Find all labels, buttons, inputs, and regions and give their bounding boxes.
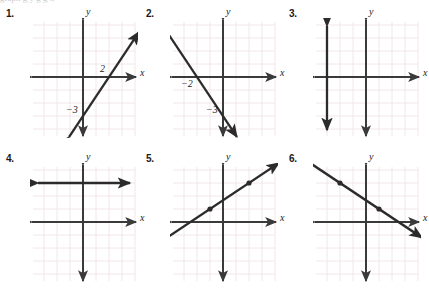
y-axis-label: y	[226, 6, 230, 17]
y-axis-label: y	[369, 6, 373, 17]
problem-number: 5.	[146, 153, 154, 164]
y-axis-label: y	[369, 151, 373, 162]
graphed-line	[69, 32, 138, 137]
coordinate-plane: yx	[170, 163, 278, 283]
problem-number: 3.	[289, 8, 297, 19]
problem-5: 5.yx	[140, 145, 283, 289]
coordinate-plane: yx	[313, 18, 421, 138]
intercept-label: −3	[66, 104, 78, 115]
coordinate-plane: yx	[313, 163, 421, 283]
coordinate-plane: yx	[30, 163, 138, 283]
problem-4: 4.yx	[0, 145, 143, 289]
problem-number: 6.	[289, 153, 297, 164]
axes	[32, 20, 136, 136]
y-axis-label: y	[86, 151, 90, 162]
problem-6: 6.yx	[283, 145, 426, 289]
problem-1: 1.2−3yx	[0, 0, 143, 144]
x-axis-label: x	[423, 212, 427, 223]
intercept-label: −3	[206, 104, 218, 115]
intercept-label: 2	[100, 63, 105, 74]
problem-number: 2.	[146, 8, 154, 19]
coordinate-plane: −2−3yx	[170, 18, 278, 138]
axes	[315, 20, 419, 136]
x-axis-label: x	[423, 67, 427, 78]
y-axis-label: y	[86, 6, 90, 17]
problem-number: 4.	[6, 153, 14, 164]
problem-3: 3.yx	[283, 0, 426, 144]
axes	[315, 165, 419, 281]
intercept-label: −2	[181, 78, 193, 89]
worksheet-page: graph g y g g x 1.2−3yx2.−2−3yx3.yx4.yx5…	[0, 0, 429, 289]
problem-number: 1.	[6, 8, 14, 19]
problem-2: 2.−2−3yx	[140, 0, 283, 144]
y-axis-label: y	[226, 151, 230, 162]
coordinate-plane: 2−3yx	[30, 18, 138, 138]
